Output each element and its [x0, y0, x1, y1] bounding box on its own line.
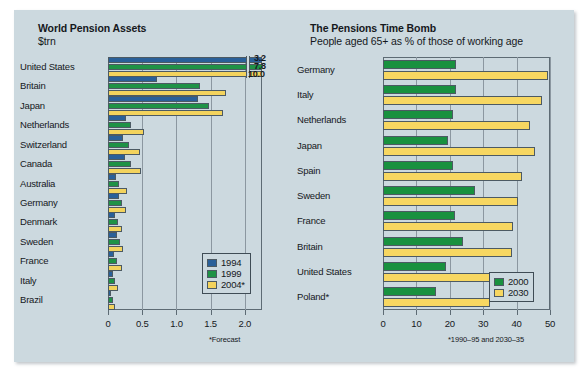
legend-swatch-icon — [494, 278, 504, 286]
bar-1999-australia — [108, 181, 119, 187]
tickmark-30 — [483, 310, 484, 315]
x-tick-label: 50 — [545, 318, 555, 329]
category-label: Japan — [20, 100, 102, 111]
legend-item[interactable]: 2030 — [494, 287, 528, 298]
right-x-axis — [383, 309, 550, 310]
legend-item[interactable]: 1999 — [207, 268, 245, 279]
bar-2000-sweden — [383, 186, 475, 195]
category-label: Poland* — [297, 291, 377, 302]
tickmark-40 — [517, 310, 518, 315]
bar-1999-canada — [108, 161, 131, 167]
right-y-axis — [383, 57, 384, 310]
category-label: France — [20, 255, 102, 266]
legend-label: 2030 — [508, 287, 528, 298]
right-chart-title: The Pensions Time Bomb — [310, 22, 523, 34]
chart-legend: 199419992004* — [202, 253, 251, 294]
gridline-50 — [550, 57, 551, 310]
value-callout: 10.0 — [248, 69, 265, 79]
left-plot-area: 00.51.01.52.0United StatesBritainJapanNe… — [108, 57, 262, 310]
bar-2000-spain — [383, 161, 453, 170]
chart-world-pension-assets: World Pension Assets $trn 00.51.01.52.0U… — [14, 10, 296, 362]
legend-label: 1999 — [221, 268, 241, 279]
category-label: France — [297, 215, 377, 226]
left-chart-subtitle: $trn — [38, 35, 146, 47]
tickmark-0 — [108, 310, 109, 315]
tickmark-10 — [416, 310, 417, 315]
bar-2000-france — [383, 211, 455, 220]
bar-1999-italy — [108, 278, 115, 284]
bar-2000-netherlands — [383, 110, 453, 119]
tickmark-0 — [383, 310, 384, 315]
x-tick-label: 1.5 — [204, 318, 217, 329]
legend-label: 1994 — [221, 257, 241, 268]
bar-1999-japan — [108, 103, 209, 109]
left-chart-titles: World Pension Assets $trn — [38, 22, 146, 47]
x-tick-label: 10 — [411, 318, 421, 329]
tickmark-20 — [450, 310, 451, 315]
bar-1994-britain — [108, 76, 157, 82]
category-label: Britain — [20, 80, 102, 91]
gridline-10 — [416, 57, 417, 310]
category-label: Germany — [297, 64, 377, 75]
bar-2000-united-states — [383, 262, 446, 271]
category-label: Switzerland — [20, 139, 102, 150]
x-tick-label: 0.5 — [136, 318, 149, 329]
bar-1999-brazil — [108, 297, 113, 303]
bar-2004-brazil — [108, 304, 115, 310]
x-tick-label: 2.0 — [239, 318, 252, 329]
x-tick-label: 20 — [445, 318, 455, 329]
bar-2030-france — [383, 222, 513, 231]
bar-2000-germany — [383, 60, 456, 69]
bar-2030-spain — [383, 172, 522, 181]
x-tick-label: 0 — [105, 318, 110, 329]
category-label: Brazil — [20, 294, 102, 305]
category-label: Netherlands — [297, 114, 377, 125]
x-tick-label: 40 — [512, 318, 522, 329]
tickmark-2.0 — [245, 310, 246, 315]
gridline-20 — [450, 57, 451, 310]
category-label: Denmark — [20, 216, 102, 227]
x-tick-label: 0 — [380, 318, 385, 329]
category-label: Canada — [20, 158, 102, 169]
category-label: Netherlands — [20, 119, 102, 130]
bar-1999-france — [108, 258, 117, 264]
bar-1994-switzerland — [108, 135, 123, 141]
bar-1994-brazil — [108, 290, 111, 296]
left-footnote: *Forecast — [209, 335, 240, 344]
bar-1999-netherlands — [108, 122, 131, 128]
tickmark-0.5 — [142, 310, 143, 315]
right-plot-area: 01020304050GermanyItalyNetherlandsJapanS… — [383, 57, 550, 310]
category-label: Italy — [297, 89, 377, 100]
bar-1994-sweden — [108, 232, 117, 238]
bar-1994-united-states — [108, 57, 262, 63]
x-tick-label: 1.0 — [170, 318, 183, 329]
bar-1994-australia — [108, 174, 116, 180]
bar-1994-japan — [108, 96, 198, 102]
category-label: Germany — [20, 197, 102, 208]
bar-1994-france — [108, 251, 114, 257]
bar-1994-denmark — [108, 212, 115, 218]
category-label: Sweden — [297, 190, 377, 201]
bar-1994-italy — [108, 271, 113, 277]
legend-swatch-icon — [494, 289, 504, 297]
bar-2000-poland- — [383, 287, 436, 296]
right-footnote: *1990–95 and 2030–35 — [448, 335, 524, 344]
figure-panel: World Pension Assets $trn 00.51.01.52.0U… — [14, 10, 574, 362]
bar-2030-germany — [383, 71, 548, 80]
bar-1999-britain — [108, 83, 200, 89]
bar-2030-poland- — [383, 298, 490, 307]
category-label: United States — [297, 266, 377, 277]
bar-1999-denmark — [108, 219, 118, 225]
bar-2030-sweden — [383, 197, 518, 206]
bar-1999-germany — [108, 200, 122, 206]
legend-item[interactable]: 2004* — [207, 279, 245, 290]
bar-2000-britain — [383, 237, 463, 246]
bar-1994-germany — [108, 193, 119, 199]
bar-2030-netherlands — [383, 121, 530, 130]
legend-item[interactable]: 2000 — [494, 276, 528, 287]
legend-item[interactable]: 1994 — [207, 257, 245, 268]
bar-1999-sweden — [108, 239, 120, 245]
bar-1994-canada — [108, 154, 125, 160]
bar-2030-italy — [383, 96, 542, 105]
bar-1999-switzerland — [108, 142, 129, 148]
